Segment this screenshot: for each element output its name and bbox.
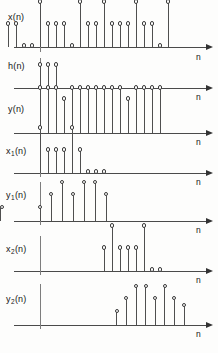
stem-head-x-4	[38, 0, 42, 4]
stem-head-y2-7	[182, 303, 186, 307]
stem-head-y-4	[70, 85, 74, 89]
stem-head-y1-2	[60, 180, 64, 184]
stem-head-x2-1	[110, 223, 114, 227]
stem-head-y2-5	[163, 284, 167, 288]
stem-x-5	[48, 25, 49, 47]
vertical-axis-y2	[40, 284, 41, 329]
axis-arrow-h	[206, 85, 213, 91]
stem-head-x2-4	[134, 245, 138, 249]
stem-y-13	[144, 89, 145, 133]
stem-head-x-14	[118, 21, 122, 25]
stem-head-x-20	[166, 0, 170, 4]
axis-label-n-y: n	[196, 137, 201, 147]
stem-head-x-5	[46, 21, 50, 25]
stem-y2-4	[155, 300, 156, 325]
stem-head-x2-6	[150, 267, 154, 271]
stem-y1-7	[0, 208, 1, 221]
axis-line-y2	[14, 325, 206, 326]
stem-x2-4	[136, 249, 137, 271]
stem-x2-2	[120, 249, 121, 271]
stem-head-x-6	[54, 21, 58, 25]
stem-head-y-15	[158, 85, 162, 89]
axis-arrow-y2	[206, 322, 213, 328]
stem-y-15	[160, 89, 161, 133]
stem-head-x-18	[150, 21, 154, 25]
stem-x-20	[168, 3, 169, 47]
stem-head-x1-4	[70, 125, 74, 129]
stem-head-x1-6	[86, 169, 90, 173]
stem-y-14	[152, 89, 153, 133]
panel-label-h: h(n)	[8, 61, 25, 71]
stem-x1-0	[40, 129, 41, 173]
panel-label-y1: y1(n)	[6, 190, 27, 201]
stem-head-y-12	[134, 85, 138, 89]
stem-head-y-6	[86, 85, 90, 89]
axis-line-y1	[14, 221, 206, 222]
stem-x-0	[8, 25, 9, 47]
stem-x1-1	[48, 151, 49, 173]
axis-arrow-x	[206, 44, 213, 50]
stem-head-x-2	[22, 43, 26, 47]
stem-y2-3	[145, 287, 146, 325]
stem-head-y1-6	[104, 192, 108, 196]
stem-y-12	[136, 89, 137, 133]
stem-y-7	[96, 89, 97, 133]
stem-head-y1-7	[0, 205, 4, 209]
axis-label-n-x: n	[196, 52, 201, 62]
stem-head-x-1	[14, 21, 18, 25]
stem-y-11	[128, 100, 129, 133]
stem-y2-5	[164, 287, 165, 325]
stem-y1-3	[73, 196, 74, 221]
stem-x-7	[64, 25, 65, 47]
stem-y1-5	[95, 183, 96, 221]
stem-x2-1	[112, 227, 113, 271]
stem-head-x2-2	[118, 245, 122, 249]
stem-x2-0	[104, 249, 105, 271]
stem-head-x1-1	[46, 147, 50, 151]
stem-head-x1-8	[102, 169, 106, 173]
stem-head-y2-4	[153, 296, 157, 300]
axis-line-y	[14, 133, 206, 134]
axis-label-n-y2: n	[196, 329, 201, 339]
axis-label-n-y1: n	[196, 225, 201, 235]
stem-head-x-15	[126, 21, 130, 25]
stem-y1-2	[62, 183, 63, 221]
stem-head-h-2	[54, 62, 58, 66]
stem-y-2	[56, 89, 57, 133]
stem-head-y-1	[46, 85, 50, 89]
stem-head-x2-3	[126, 245, 130, 249]
stem-head-h-1	[46, 62, 50, 66]
stem-y-9	[112, 89, 113, 133]
stem-head-x-3	[30, 43, 34, 47]
stem-x-10	[88, 25, 89, 47]
axis-label-n-x2: n	[196, 275, 201, 285]
stem-x-16	[136, 3, 137, 47]
stem-head-x-7	[62, 21, 66, 25]
stem-y2-6	[174, 300, 175, 325]
stem-head-x-12	[102, 0, 106, 4]
stem-head-x1-2	[54, 147, 58, 151]
stem-head-x-9	[78, 0, 82, 4]
stem-x1-2	[56, 151, 57, 173]
stem-x-15	[128, 25, 129, 47]
stem-x2-5	[144, 227, 145, 271]
panel-label-y: y(n)	[8, 104, 24, 114]
stem-head-x-11	[94, 21, 98, 25]
stem-head-y-5	[78, 85, 82, 89]
stem-y2-0	[116, 312, 117, 325]
stem-x1-4	[72, 129, 73, 173]
stem-head-x-13	[110, 21, 114, 25]
stem-y1-6	[106, 196, 107, 221]
stem-x-6	[56, 25, 57, 47]
axis-label-n-x1: n	[196, 177, 201, 187]
axis-label-n-h: n	[196, 92, 201, 102]
stem-x-9	[80, 3, 81, 47]
stem-head-y-10	[118, 85, 122, 89]
stem-head-y-11	[126, 96, 130, 100]
stem-x2-3	[128, 249, 129, 271]
stem-y-3	[64, 100, 65, 133]
stem-head-x2-7	[158, 267, 162, 271]
stem-head-x1-7	[94, 169, 98, 173]
stem-x1-3	[64, 151, 65, 173]
stem-y1-1	[51, 196, 52, 221]
